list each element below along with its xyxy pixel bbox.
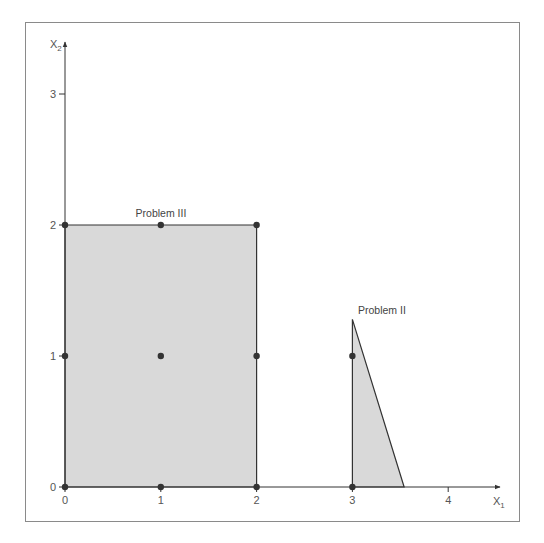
cropped-margin-text <box>534 30 542 100</box>
x-tick-label: 4 <box>445 494 451 506</box>
problem-ii-label: Problem II <box>358 304 406 316</box>
region-problem-ii <box>352 319 404 487</box>
lattice-point <box>62 222 68 228</box>
x-axis-title: X1 <box>493 495 505 510</box>
lattice-point <box>158 353 164 359</box>
x-tick-label: 0 <box>62 494 68 506</box>
lattice-point <box>253 353 259 359</box>
lattice-point <box>158 222 164 228</box>
x-tick-label: 1 <box>158 494 164 506</box>
y-tick-label: 2 <box>50 219 56 231</box>
lattice-point <box>158 484 164 490</box>
lattice-point <box>62 353 68 359</box>
y-tick-label: 3 <box>50 88 56 100</box>
y-tick-label: 1 <box>50 350 56 362</box>
y-axis-title: X2 <box>50 38 62 53</box>
x-tick-label: 2 <box>254 494 260 506</box>
lattice-point <box>253 222 259 228</box>
lattice-point <box>62 484 68 490</box>
lattice-point <box>349 484 355 490</box>
lattice-diagram: 012340123 X2 X1 Problem III Problem II <box>0 0 544 543</box>
y-tick-label: 0 <box>50 481 56 493</box>
x-tick-label: 3 <box>349 494 355 506</box>
lattice-point <box>349 353 355 359</box>
problem-iii-label: Problem III <box>136 207 187 219</box>
lattice-point <box>253 484 259 490</box>
